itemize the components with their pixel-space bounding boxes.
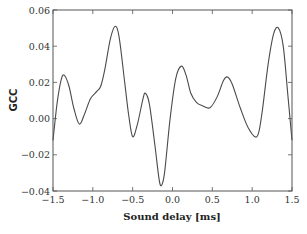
x-tick-label: −0.5 [121,194,144,205]
y-tick-label: 0.02 [29,77,50,88]
y-axis-title: GCC [8,89,19,112]
y-tick-label: 0.04 [29,41,50,52]
x-axis-title: Sound delay [ms] [123,211,221,222]
y-tick-label: 0.00 [29,113,50,124]
y-axis-ticks: −0.04−0.020.000.020.040.06 [21,5,292,197]
gcc-line-chart: −0.04−0.020.000.020.040.06 −1.5−1.0−0.50… [0,0,307,234]
x-axis-ticks: −1.5−1.0−0.50.00.51.01.5 [41,10,299,205]
x-tick-label: −1.5 [41,194,64,205]
x-tick-label: 0.0 [165,194,180,205]
x-tick-label: 1.5 [284,194,299,205]
x-tick-label: 0.5 [205,194,220,205]
gcc-curve [53,26,292,186]
y-tick-label: −0.02 [21,149,50,160]
x-tick-label: −1.0 [81,194,104,205]
x-tick-label: 1.0 [245,194,260,205]
y-tick-label: 0.06 [29,5,50,16]
